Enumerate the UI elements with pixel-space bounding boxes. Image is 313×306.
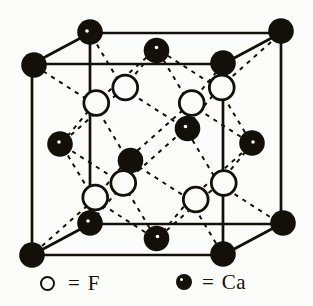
print-speck xyxy=(86,219,90,223)
ca-atom xyxy=(77,19,103,45)
f-atom xyxy=(179,91,204,116)
ca-atom xyxy=(19,242,45,268)
print-speck xyxy=(156,235,160,239)
f-atom xyxy=(209,75,234,100)
legend-equals-f: = xyxy=(68,271,80,295)
ca-atom xyxy=(210,241,236,267)
ca-atom xyxy=(270,210,296,236)
ca-atom xyxy=(210,50,236,76)
ca-atom xyxy=(268,18,294,44)
ca-atom xyxy=(175,116,201,142)
legend-label-ca: Ca xyxy=(222,270,246,294)
f-atom xyxy=(111,171,136,196)
print-speck xyxy=(180,278,183,281)
f-atom xyxy=(84,91,109,116)
ca-atom xyxy=(47,131,73,157)
crystal-structure-figure xyxy=(0,0,313,306)
print-speck xyxy=(184,125,188,129)
open-circle-icon xyxy=(40,276,55,291)
f-atom xyxy=(211,171,236,196)
ca-atom xyxy=(21,52,47,78)
legend-item-fluorine: = F xyxy=(40,270,100,296)
f-atom xyxy=(113,75,138,100)
f-atom xyxy=(83,185,108,210)
f-atom xyxy=(183,187,208,212)
ca-atom xyxy=(144,226,170,252)
print-speck xyxy=(57,140,61,144)
ca-atom xyxy=(144,38,170,64)
filled-circle-icon xyxy=(176,274,192,290)
print-speck xyxy=(85,29,89,33)
print-speck xyxy=(155,46,159,50)
legend-equals-ca: = xyxy=(202,270,214,294)
ca-atom xyxy=(77,210,103,236)
print-speck xyxy=(251,140,255,144)
legend-label-f: F xyxy=(88,271,100,295)
legend-item-calcium: = Ca xyxy=(176,269,246,295)
